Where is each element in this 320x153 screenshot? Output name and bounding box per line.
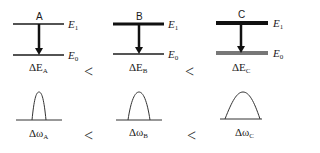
level-label-e1-b: E1 — [168, 19, 178, 32]
system-label-b: B — [136, 12, 143, 22]
freq-delta-c: ΔωC — [235, 127, 254, 140]
system-label-a: A — [36, 12, 43, 22]
freq-delta-b: ΔωB — [129, 127, 148, 140]
arrowhead-b — [135, 47, 143, 54]
arrowhead-a — [35, 48, 43, 55]
energy-delta-a: ΔEA — [29, 62, 48, 75]
peak-b — [128, 92, 150, 120]
energy-delta-c: ΔEC — [232, 62, 250, 75]
peak-a — [32, 92, 46, 120]
less-than-freq-bc: < — [187, 128, 196, 144]
level-label-e0-b: E0 — [168, 49, 178, 62]
peak-c — [225, 92, 260, 119]
level-label-e1-a: E1 — [68, 19, 78, 32]
less-than-energy-bc: < — [185, 64, 194, 80]
system-label-c: C — [238, 10, 245, 20]
level-label-e0-a: E0 — [68, 50, 78, 63]
energy-delta-b: ΔEB — [129, 62, 147, 75]
less-than-energy-ab: < — [84, 64, 93, 80]
level-label-e0-c: E0 — [273, 48, 283, 61]
less-than-freq-ab: < — [84, 128, 93, 144]
level-label-e1-c: E1 — [273, 18, 283, 31]
freq-delta-a: ΔωA — [29, 128, 48, 141]
